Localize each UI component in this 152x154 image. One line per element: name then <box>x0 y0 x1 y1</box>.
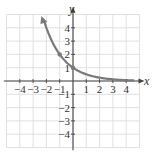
x-tick-label: 4 <box>123 83 129 95</box>
curve-line <box>44 22 134 80</box>
x-tick-label: −3 <box>27 83 39 95</box>
x-tick-label: −4 <box>14 83 26 95</box>
x-tick-label: 1 <box>84 83 90 95</box>
x-tick-label: 2 <box>97 83 103 95</box>
x-axis-label: x <box>143 74 150 88</box>
exponential-graph: −4−3−2−11234−4−3−2−11234 x y <box>0 0 152 154</box>
y-tick-label: −4 <box>58 128 70 140</box>
x-tick-label: −2 <box>41 83 53 95</box>
y-tick-label: −2 <box>58 102 70 114</box>
y-tick-label: 4 <box>65 22 71 34</box>
y-tick-label: −3 <box>58 115 70 127</box>
x-tick-label: 3 <box>110 83 116 95</box>
y-tick-label: 3 <box>65 35 71 47</box>
data-point <box>71 66 75 70</box>
y-tick-label: 2 <box>65 48 71 60</box>
curve <box>40 16 134 80</box>
axes <box>4 7 145 150</box>
y-axis-label: y <box>68 2 75 16</box>
y-tick-label: −1 <box>58 88 70 100</box>
data-point <box>58 52 62 56</box>
